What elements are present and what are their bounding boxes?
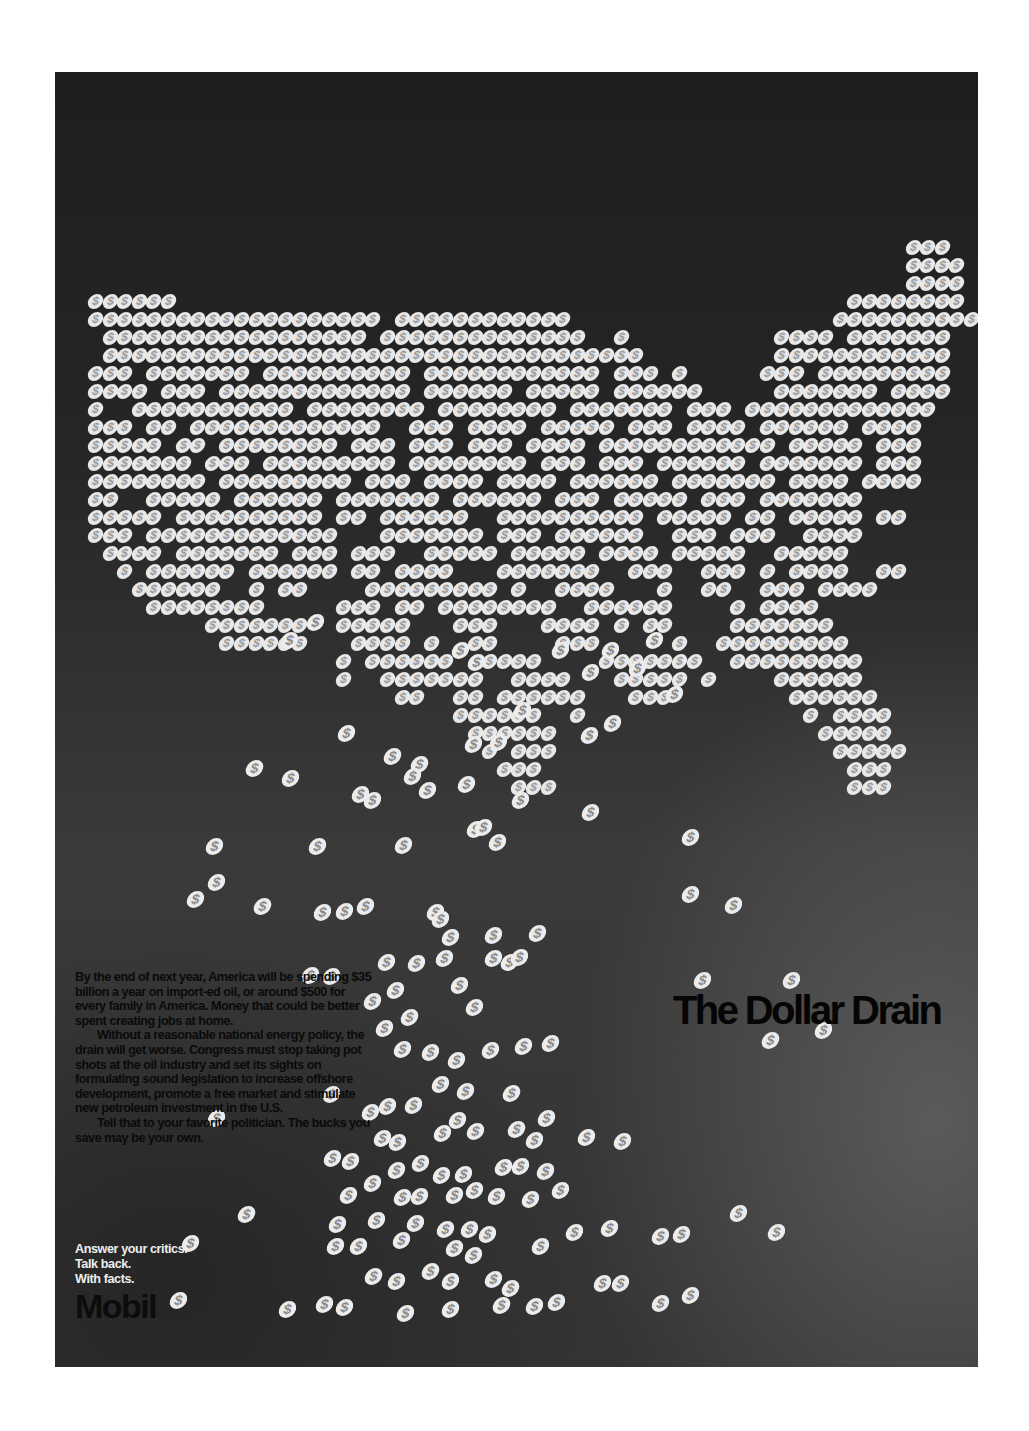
headline: The Dollar Drain — [673, 988, 940, 1032]
falling-dollar-coin-icon: $ — [463, 1247, 484, 1264]
falling-dollar-coin-icon: $ — [444, 1240, 465, 1257]
falling-dollar-coin-icon: $ — [277, 1301, 298, 1318]
falling-dollar-coin-icon: $ — [580, 664, 601, 681]
falling-dollar-coin-icon: $ — [406, 955, 427, 972]
falling-dollar-coin-icon: $ — [536, 1110, 557, 1127]
falling-dollar-coin-icon: $ — [766, 1224, 787, 1241]
falling-dollar-coin-icon: $ — [488, 734, 509, 751]
falling-dollar-coin-icon: $ — [680, 1287, 701, 1304]
falling-dollar-coin-icon: $ — [664, 686, 685, 703]
falling-dollar-coin-icon: $ — [252, 898, 273, 915]
falling-dollar-coin-icon: $ — [446, 1052, 467, 1069]
mobil-logo: Mobil — [75, 1288, 156, 1324]
falling-dollar-coin-icon: $ — [728, 1205, 749, 1222]
falling-dollar-coin-icon: $ — [546, 1294, 567, 1311]
tagline-line-1: Answer your critics. — [75, 1242, 187, 1257]
falling-dollar-coin-icon: $ — [314, 1296, 335, 1313]
falling-dollar-coin-icon: $ — [535, 1163, 556, 1180]
falling-dollar-coins: $$$$$$$$$$$$$$$$$$$$$$$$$$$$$$$$$$$$$$$$… — [55, 72, 978, 1367]
tagline-line-3: With facts. — [75, 1272, 187, 1287]
falling-dollar-coin-icon: $ — [680, 886, 701, 903]
falling-dollar-coin-icon: $ — [550, 1182, 571, 1199]
falling-dollar-coin-icon: $ — [405, 1215, 426, 1232]
falling-dollar-coin-icon: $ — [524, 1132, 545, 1149]
falling-dollar-coin-icon: $ — [236, 1206, 257, 1223]
falling-dollar-coin-icon: $ — [627, 660, 648, 677]
falling-dollar-coin-icon: $ — [348, 1238, 369, 1255]
falling-dollar-coin-icon: $ — [459, 1221, 480, 1238]
falling-dollar-coin-icon: $ — [366, 1212, 387, 1229]
falling-dollar-coin-icon: $ — [280, 770, 301, 787]
falling-dollar-coin-icon: $ — [362, 1175, 383, 1192]
falling-dollar-coin-icon: $ — [410, 1155, 431, 1172]
falling-dollar-coin-icon: $ — [325, 1238, 346, 1255]
falling-dollar-coin-icon: $ — [386, 1273, 407, 1290]
falling-dollar-coin-icon: $ — [580, 804, 601, 821]
falling-dollar-coin-icon: $ — [487, 834, 508, 851]
falling-dollar-coin-icon: $ — [340, 1153, 361, 1170]
falling-dollar-coin-icon: $ — [444, 1187, 465, 1204]
falling-dollar-coin-icon: $ — [692, 972, 713, 989]
falling-dollar-coin-icon: $ — [312, 904, 333, 921]
falling-dollar-coin-icon: $ — [520, 1191, 541, 1208]
tagline: Answer your critics. Talk back. With fac… — [75, 1242, 187, 1287]
falling-dollar-coin-icon: $ — [644, 632, 665, 649]
falling-dollar-coin-icon: $ — [385, 982, 406, 999]
falling-dollar-coin-icon: $ — [463, 736, 484, 753]
falling-dollar-coin-icon: $ — [579, 727, 600, 744]
falling-dollar-coin-icon: $ — [477, 1226, 498, 1243]
ad-panel: $$$$$$$$$$$$$$$$$$$$$$$$$$$$$$$$$$$$$$$$… — [55, 72, 978, 1367]
falling-dollar-coin-icon: $ — [599, 1220, 620, 1237]
falling-dollar-coin-icon: $ — [456, 776, 477, 793]
falling-dollar-coin-icon: $ — [244, 760, 265, 777]
falling-dollar-coin-icon: $ — [610, 1275, 631, 1292]
falling-dollar-coin-icon: $ — [564, 1224, 585, 1241]
falling-dollar-coin-icon: $ — [550, 642, 571, 659]
falling-dollar-coin-icon: $ — [402, 768, 423, 785]
falling-dollar-coin-icon: $ — [466, 654, 487, 671]
falling-dollar-coin-icon: $ — [530, 1238, 551, 1255]
falling-dollar-coin-icon: $ — [338, 1187, 359, 1204]
falling-dollar-coin-icon: $ — [486, 1188, 507, 1205]
falling-dollar-coin-icon: $ — [600, 642, 621, 659]
falling-dollar-coin-icon: $ — [382, 748, 403, 765]
falling-dollar-coin-icon: $ — [395, 1305, 416, 1322]
falling-dollar-coin-icon: $ — [440, 1301, 461, 1318]
falling-dollar-coin-icon: $ — [576, 1129, 597, 1146]
falling-dollar-coin-icon: $ — [592, 1275, 613, 1292]
falling-dollar-coin-icon: $ — [483, 1271, 504, 1288]
falling-dollar-coin-icon: $ — [760, 1032, 781, 1049]
falling-dollar-coin-icon: $ — [781, 972, 802, 989]
falling-dollar-coin-icon: $ — [671, 1226, 692, 1243]
tagline-line-2: Talk back. — [75, 1257, 187, 1272]
falling-dollar-coin-icon: $ — [450, 642, 471, 659]
falling-dollar-coin-icon: $ — [510, 1158, 531, 1175]
body-paragraph-2: Without a reasonable national energy pol… — [75, 1028, 375, 1116]
falling-dollar-coin-icon: $ — [464, 999, 485, 1016]
falling-dollar-coin-icon: $ — [602, 715, 623, 732]
falling-dollar-coin-icon: $ — [540, 1035, 561, 1052]
falling-dollar-coin-icon: $ — [723, 897, 744, 914]
body-paragraph-3: Tell that to your favorite politician. T… — [75, 1116, 375, 1145]
falling-dollar-coin-icon: $ — [376, 954, 397, 971]
falling-dollar-coin-icon: $ — [650, 1228, 671, 1245]
falling-dollar-coin-icon: $ — [403, 1097, 424, 1114]
falling-dollar-coin-icon: $ — [409, 1188, 430, 1205]
falling-dollar-coin-icon: $ — [307, 838, 328, 855]
falling-dollar-coin-icon: $ — [527, 925, 548, 942]
falling-dollar-coin-icon: $ — [434, 950, 455, 967]
falling-dollar-coin-icon: $ — [363, 1268, 384, 1285]
falling-dollar-coin-icon: $ — [391, 1232, 412, 1249]
falling-dollar-coin-icon: $ — [650, 1295, 671, 1312]
falling-dollar-coin-icon: $ — [455, 1083, 476, 1100]
falling-dollar-coin-icon: $ — [612, 1133, 633, 1150]
falling-dollar-coin-icon: $ — [524, 1298, 545, 1315]
falling-dollar-coin-icon: $ — [447, 1112, 468, 1129]
falling-dollar-coin-icon: $ — [377, 1098, 398, 1115]
falling-dollar-coin-icon: $ — [430, 1076, 451, 1093]
falling-dollar-coin-icon: $ — [491, 1297, 512, 1314]
falling-dollar-coin-icon: $ — [431, 1167, 452, 1184]
falling-dollar-coin-icon: $ — [355, 898, 376, 915]
falling-dollar-coin-icon: $ — [512, 702, 533, 719]
falling-dollar-coin-icon: $ — [206, 874, 227, 891]
